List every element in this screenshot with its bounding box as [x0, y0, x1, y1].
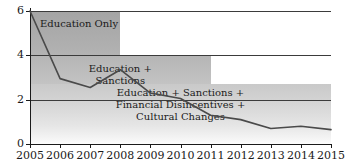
series-polyline	[30, 11, 331, 130]
